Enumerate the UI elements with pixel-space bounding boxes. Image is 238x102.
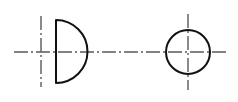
technical-drawing-canvas: Orthographic projection: semicircular pr… [0,0,238,102]
orthographic-drawing: Orthographic projection: semicircular pr… [0,0,238,102]
canvas-background [0,0,238,102]
